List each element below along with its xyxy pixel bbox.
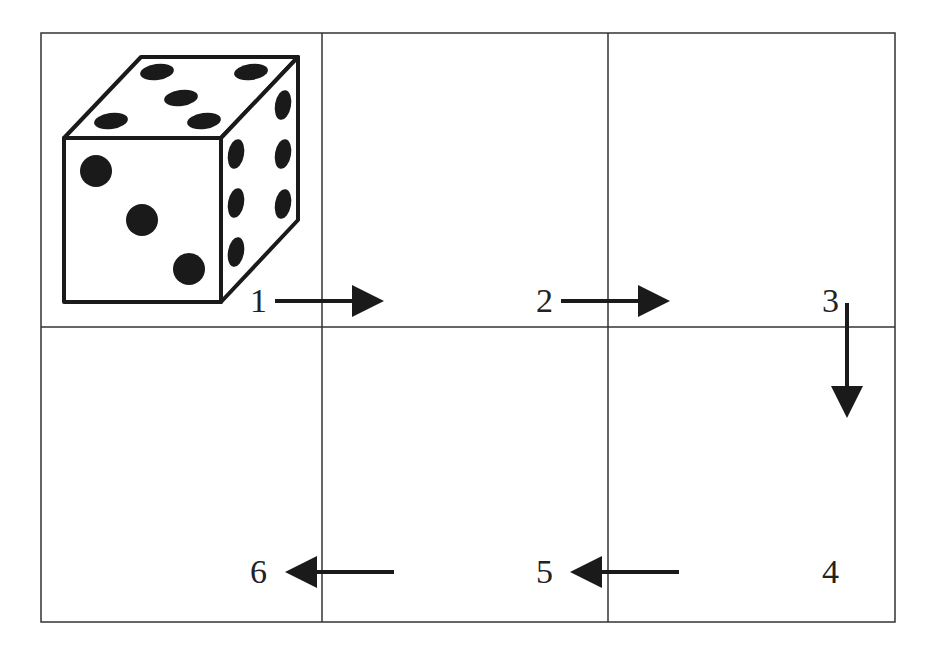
position-label-1: 1	[250, 282, 267, 319]
path-arrows	[275, 301, 847, 572]
position-label-5: 5	[536, 553, 553, 590]
position-label-4: 4	[822, 553, 839, 590]
position-label-3: 3	[822, 282, 839, 319]
position-label-2: 2	[536, 282, 553, 319]
position-label-6: 6	[250, 553, 267, 590]
dice-grid-diagram: 1 2 3 4 5 6	[0, 0, 940, 650]
